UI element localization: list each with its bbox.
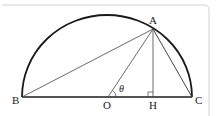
segment-oa — [108, 29, 153, 97]
semicircle-arc — [22, 15, 192, 97]
label-a: A — [149, 14, 157, 26]
label-b: B — [12, 94, 19, 106]
label-c: C — [195, 94, 202, 106]
segment-ab — [22, 29, 153, 97]
label-o: O — [103, 99, 111, 111]
label-h: H — [149, 99, 157, 111]
label-theta: θ — [119, 83, 124, 94]
segment-ac — [153, 29, 192, 97]
theta-angle-arc — [113, 90, 117, 97]
semicircle-diagram: A B O H C θ — [0, 0, 219, 116]
